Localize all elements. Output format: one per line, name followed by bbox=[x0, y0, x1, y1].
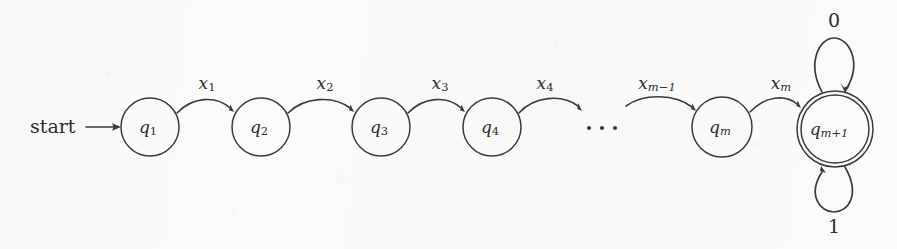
state-q2-base: q bbox=[250, 117, 261, 137]
state-q2-label: q2 bbox=[250, 117, 268, 139]
edge-label-x1: x1 bbox=[199, 73, 216, 95]
state-q3[interactable]: q3 bbox=[352, 98, 410, 156]
state-q4-sub: 4 bbox=[492, 124, 499, 138]
edge-label-xm-1-base: x bbox=[638, 73, 648, 93]
start-marker: start bbox=[30, 115, 121, 137]
ellipsis-dot-2 bbox=[600, 126, 604, 130]
state-q1[interactable]: q1 bbox=[121, 98, 179, 156]
ellipsis-group bbox=[587, 126, 617, 130]
self-loops bbox=[815, 38, 854, 212]
state-qm1-sub: m+1 bbox=[821, 126, 849, 140]
edge-label-x3: x3 bbox=[432, 73, 449, 95]
edge-q3-q4-path bbox=[408, 99, 461, 113]
edge-label-x2-base: x bbox=[317, 73, 327, 93]
edge-label-x2: x2 bbox=[317, 73, 334, 95]
edge-label-x3-sub: 3 bbox=[441, 80, 448, 94]
self-loop-bottom-1 bbox=[815, 166, 852, 212]
automaton-svg: start bbox=[0, 0, 897, 249]
edge-label-xm: xm bbox=[771, 73, 792, 95]
edge-q1-q2 bbox=[177, 99, 234, 113]
self-loop-label-1: 1 bbox=[828, 215, 840, 237]
states: q1 q2 q3 q4 bbox=[121, 91, 873, 167]
start-label: start bbox=[30, 115, 76, 137]
self-loop-top-0 bbox=[815, 38, 854, 93]
edge-label-x4-base: x bbox=[537, 73, 547, 93]
state-qm-sub: m bbox=[720, 124, 731, 138]
state-q4[interactable]: q4 bbox=[463, 98, 521, 156]
state-q1-sub: 1 bbox=[150, 124, 157, 138]
edge-q3-q4-arrowhead bbox=[455, 104, 466, 112]
state-q1-base: q bbox=[139, 117, 150, 137]
ellipsis-dot-3 bbox=[613, 126, 617, 130]
state-q2[interactable]: q2 bbox=[232, 98, 290, 156]
state-q3-label: q3 bbox=[370, 117, 388, 139]
state-q4-label: q4 bbox=[481, 117, 499, 139]
state-q1-label: q1 bbox=[139, 117, 157, 139]
edge-ellipsis-qm-path bbox=[626, 97, 692, 107]
edge-label-x1-base: x bbox=[199, 73, 209, 93]
edge-q4-ellipsis bbox=[519, 98, 582, 113]
edge-qm-qm1 bbox=[750, 98, 801, 112]
edge-q2-q3 bbox=[288, 99, 354, 113]
state-qm1-base: q bbox=[810, 119, 821, 139]
edge-qm-qm1-path bbox=[750, 98, 797, 112]
state-qm-base: q bbox=[709, 117, 720, 137]
edge-q3-q4 bbox=[408, 99, 465, 113]
edge-q1-q2-path bbox=[177, 99, 230, 113]
edge-label-xm-1-sub: m−1 bbox=[648, 80, 676, 94]
self-loop-bottom-path bbox=[815, 167, 852, 212]
edge-label-x1-sub: 1 bbox=[208, 80, 215, 94]
edge-q1-q2-arrowhead bbox=[224, 104, 235, 112]
state-qm-label: qm bbox=[709, 117, 731, 139]
edge-label-x2-sub: 2 bbox=[326, 80, 333, 94]
edge-label-xm-base: x bbox=[771, 73, 781, 93]
state-q3-sub: 3 bbox=[381, 124, 388, 138]
edge-label-x4-sub: 4 bbox=[546, 80, 553, 94]
edge-label-xm-sub: m bbox=[780, 80, 791, 94]
ellipsis-dot-1 bbox=[587, 126, 591, 130]
edge-q4-ellipsis-path bbox=[519, 98, 578, 113]
transition-labels: x1 x2 x3 x4 xm−1 xm bbox=[199, 73, 792, 95]
state-q2-sub: 2 bbox=[261, 124, 268, 138]
edge-ellipsis-qm bbox=[626, 97, 696, 111]
state-qm1-accepting[interactable]: qm+1 bbox=[797, 91, 873, 167]
state-q3-base: q bbox=[370, 117, 381, 137]
edge-label-x4: x4 bbox=[537, 73, 554, 95]
self-loop-label-0: 0 bbox=[828, 9, 840, 31]
edge-label-x3-base: x bbox=[432, 73, 442, 93]
self-loop-top-path bbox=[815, 38, 854, 92]
state-qm[interactable]: qm bbox=[692, 97, 752, 157]
edge-label-xm-1: xm−1 bbox=[638, 73, 675, 95]
self-loop-labels: 0 1 bbox=[828, 9, 840, 237]
edge-q2-q3-path bbox=[288, 99, 350, 113]
state-qm1-label: qm+1 bbox=[810, 119, 849, 141]
state-q4-base: q bbox=[481, 117, 492, 137]
automaton-figure-canvas: start bbox=[0, 0, 897, 249]
